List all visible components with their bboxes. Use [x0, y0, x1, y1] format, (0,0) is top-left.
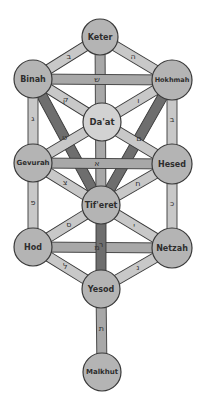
sefirah-tiferet: Tif'eret [82, 186, 120, 224]
sefirah-label: Netzah [156, 244, 188, 253]
path-gevurah-hesed [33, 158, 172, 169]
hebrew-letter-label: ב [66, 52, 71, 61]
sefirah-keter: Keter [82, 19, 118, 55]
sefirah-yesod: Yesod [82, 270, 120, 308]
hebrew-letter-label: ם [136, 134, 141, 143]
hebrew-letter-label: נ [136, 263, 139, 272]
sefirah-label: Da'at [89, 117, 114, 127]
sefirah-label: Hokhmah [155, 76, 190, 84]
sefirah-label: Gevurah [16, 159, 49, 167]
hebrew-letter-label: ט [62, 133, 67, 142]
sefirah-label: Yesod [87, 285, 115, 294]
sefirah-label: Binah [20, 75, 46, 84]
hebrew-letter-label: ח [135, 179, 140, 188]
sefirah-label: Keter [88, 33, 113, 42]
sefirah-netzah: Netzah [152, 228, 192, 268]
hebrew-letter-label: א [94, 159, 99, 168]
hebrew-letter-label: ב [170, 115, 175, 124]
sefirah-hesed: Hesed [152, 144, 192, 184]
sefirah-binah: Binah [14, 60, 52, 98]
sefirah-label: Hesed [158, 160, 186, 169]
path-binah-hokhmah [33, 74, 172, 85]
sefirah-gevurah: Gevurah [14, 144, 52, 182]
hebrew-letter-label: ר [99, 240, 104, 249]
hebrew-letter-label: ת [99, 324, 104, 333]
hebrew-letter-label: ק [63, 95, 69, 104]
sefirah-malkhut: Malkhut [83, 353, 121, 391]
sefirah-daat: Da'at [83, 103, 121, 141]
hebrew-letter-label: פ [31, 198, 36, 207]
path-bar [33, 158, 172, 169]
sefirah-label: Malkhut [86, 368, 119, 376]
hebrew-letter-label: כ [170, 199, 174, 208]
hebrew-letter-label: ה [131, 52, 136, 61]
tree-of-life-diagram: טםגבהשקוגבאצחפכסימרלנת KeterBinahHokhmah… [0, 0, 203, 414]
path-bar [33, 74, 172, 85]
hebrew-letter-label: ל [63, 262, 68, 271]
sefirah-hokhmah: Hokhmah [152, 60, 192, 100]
sefirah-label: Hod [24, 243, 42, 252]
sefirah-label: Tif'eret [85, 201, 118, 210]
hebrew-letter-label: ש [94, 75, 100, 84]
hebrew-letter-label: ו [137, 96, 139, 105]
sefirah-hod: Hod [14, 228, 52, 266]
hebrew-letter-label: ס [66, 220, 71, 229]
hebrew-letter-label: צ [63, 178, 68, 187]
hebrew-letter-label: י [133, 221, 135, 230]
